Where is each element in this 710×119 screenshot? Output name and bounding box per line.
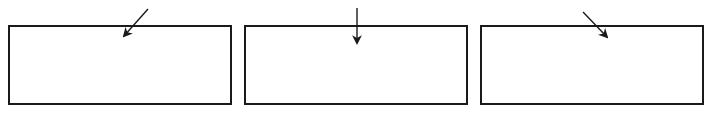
panel-box-3 <box>480 25 704 105</box>
panel-box-1 <box>8 25 232 105</box>
panel-box-2 <box>244 25 468 105</box>
